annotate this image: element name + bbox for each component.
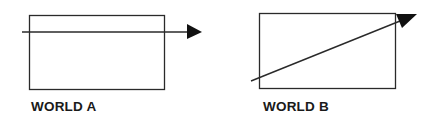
world-b-label: WORLD B bbox=[263, 100, 329, 114]
world-a-label: WORLD A bbox=[31, 100, 96, 114]
world-a-rectangle bbox=[30, 16, 165, 90]
world-b-arrow-shaft bbox=[251, 19, 405, 81]
world-a-panel bbox=[22, 16, 202, 90]
world-b-arrowhead-icon bbox=[396, 14, 417, 28]
world-a-arrowhead-icon bbox=[187, 24, 202, 39]
world-b-panel bbox=[251, 14, 417, 89]
world-b-rectangle bbox=[260, 14, 396, 89]
